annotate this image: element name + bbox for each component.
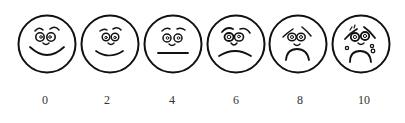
face-10-crying-icon <box>330 13 392 75</box>
scale-label-0: 0 <box>30 93 60 108</box>
scale-label-6: 6 <box>221 93 251 108</box>
scale-label-2: 2 <box>92 93 122 108</box>
face-8-very-sad-icon <box>267 13 329 75</box>
face-4-neutral-icon <box>142 13 204 75</box>
face-0-very-happy-icon <box>16 13 78 75</box>
scale-label-4: 4 <box>157 93 187 108</box>
scale-label-8: 8 <box>285 93 315 108</box>
scale-label-10: 10 <box>349 93 379 108</box>
face-6-sad-icon <box>205 13 267 75</box>
faces-pain-scale: 0 2 4 6 8 10 <box>0 0 405 123</box>
face-2-happy-icon <box>79 13 141 75</box>
